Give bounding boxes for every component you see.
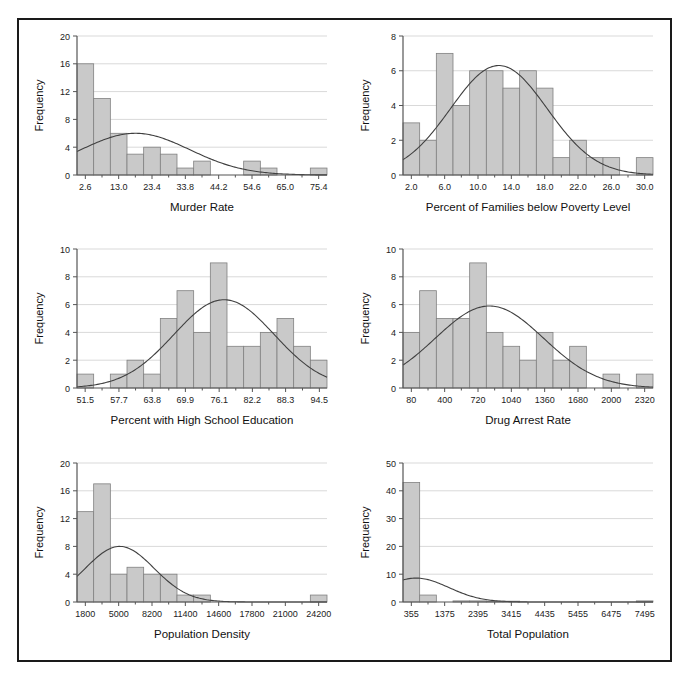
histogram-bar bbox=[260, 168, 277, 175]
x-tick-label: 1800 bbox=[75, 609, 95, 619]
y-tick-label: 2 bbox=[390, 136, 395, 146]
figure-frame: 0481216202.613.023.433.844.254.665.075.4… bbox=[17, 18, 672, 662]
histogram-bar bbox=[110, 574, 127, 602]
x-tick-label: 33.8 bbox=[177, 182, 195, 192]
x-tick-label: 1680 bbox=[567, 395, 587, 405]
x-tick-label: 51.5 bbox=[76, 395, 94, 405]
y-tick-label: 10 bbox=[60, 245, 70, 255]
bars bbox=[403, 53, 653, 175]
panel-total-population: 0102030405035513752395341544355455647574… bbox=[345, 447, 671, 660]
x-tick-label: 75.4 bbox=[310, 182, 328, 192]
y-axis-label: Frequency bbox=[359, 506, 371, 558]
x-tick-label: 54.6 bbox=[243, 182, 261, 192]
histogram-bar bbox=[569, 140, 586, 175]
histogram-bar bbox=[403, 333, 420, 389]
histogram-bar bbox=[77, 511, 94, 601]
x-tick-label: 355 bbox=[403, 609, 418, 619]
x-tick-label: 8200 bbox=[142, 609, 162, 619]
histogram-bar bbox=[177, 168, 194, 175]
y-tick-label: 0 bbox=[65, 171, 70, 181]
x-tick-label: 17800 bbox=[239, 609, 264, 619]
histogram-bar bbox=[310, 361, 327, 389]
histogram-bar bbox=[569, 347, 586, 389]
x-tick-label: 24200 bbox=[306, 609, 331, 619]
x-tick-label: 3415 bbox=[501, 609, 521, 619]
histogram-bar bbox=[436, 319, 453, 389]
y-tick-label: 30 bbox=[385, 514, 395, 524]
bars bbox=[403, 263, 653, 388]
y-axis-label: Frequency bbox=[33, 506, 45, 558]
x-tick-label: 10.0 bbox=[469, 182, 487, 192]
histogram-bar bbox=[160, 154, 177, 175]
y-tick-label: 0 bbox=[390, 171, 395, 181]
histogram-bar bbox=[486, 71, 503, 175]
histogram-bar bbox=[310, 595, 327, 602]
y-axis-label: Frequency bbox=[33, 79, 45, 131]
histogram-bar bbox=[519, 361, 536, 389]
y-axis-label: Frequency bbox=[359, 292, 371, 344]
y-tick-label: 4 bbox=[390, 101, 395, 111]
histogram-bar bbox=[77, 64, 94, 175]
y-tick-label: 4 bbox=[65, 569, 70, 579]
histogram-bar bbox=[294, 347, 311, 389]
x-tick-label: 80 bbox=[406, 395, 416, 405]
x-tick-label: 1375 bbox=[434, 609, 454, 619]
x-tick-label: 14.0 bbox=[502, 182, 520, 192]
histogram-bar bbox=[553, 361, 570, 389]
histogram-bar bbox=[603, 158, 620, 175]
x-axis-label: Percent of Families below Poverty Level bbox=[425, 201, 630, 213]
x-tick-label: 22.0 bbox=[569, 182, 587, 192]
normal-curve bbox=[403, 578, 653, 602]
y-tick-label: 10 bbox=[385, 569, 395, 579]
histogram-bar bbox=[453, 106, 470, 176]
histogram-bar bbox=[536, 333, 553, 389]
bars bbox=[77, 263, 327, 388]
histogram-drug-arrest-rate: 02468108040072010401360168020002320Frequ… bbox=[345, 233, 671, 446]
x-tick-label: 65.0 bbox=[277, 182, 295, 192]
histogram-bar bbox=[160, 574, 177, 602]
x-tick-label: 2.6 bbox=[79, 182, 92, 192]
panel-population-density: 0481216201800500082001140014600178002100… bbox=[19, 447, 345, 660]
histogram-bar bbox=[503, 88, 520, 175]
histogram-bar bbox=[469, 263, 486, 388]
y-tick-label: 6 bbox=[390, 66, 395, 76]
x-tick-label: 1360 bbox=[534, 395, 554, 405]
y-tick-label: 40 bbox=[385, 486, 395, 496]
histogram-bar bbox=[160, 319, 177, 389]
histogram-total-population: 0102030405035513752395341544355455647574… bbox=[345, 447, 671, 660]
histogram-bar bbox=[244, 161, 261, 175]
histogram-bar bbox=[519, 71, 536, 175]
x-tick-label: 2395 bbox=[467, 609, 487, 619]
y-tick-label: 0 bbox=[390, 597, 395, 607]
x-tick-label: 44.2 bbox=[210, 182, 228, 192]
figure-page: 0481216202.613.023.433.844.254.665.075.4… bbox=[0, 0, 687, 675]
y-tick-label: 50 bbox=[385, 458, 395, 468]
y-tick-label: 2 bbox=[390, 356, 395, 366]
histogram-bar bbox=[310, 168, 327, 175]
y-tick-label: 0 bbox=[65, 384, 70, 394]
histogram-poverty-level: 024682.06.010.014.018.022.026.030.0Frequ… bbox=[345, 20, 671, 233]
y-tick-label: 8 bbox=[390, 32, 395, 42]
y-tick-label: 2 bbox=[65, 356, 70, 366]
histogram-grid: 0481216202.613.023.433.844.254.665.075.4… bbox=[19, 20, 670, 660]
y-tick-label: 6 bbox=[65, 300, 70, 310]
histogram-high-school-education: 024681051.557.763.869.976.182.288.394.5F… bbox=[19, 233, 345, 446]
x-tick-label: 400 bbox=[437, 395, 452, 405]
x-tick-label: 69.9 bbox=[177, 395, 195, 405]
y-tick-label: 0 bbox=[390, 384, 395, 394]
histogram-bar bbox=[144, 574, 161, 602]
x-tick-label: 57.7 bbox=[110, 395, 128, 405]
histogram-bar bbox=[244, 347, 261, 389]
x-tick-label: 94.5 bbox=[311, 395, 329, 405]
x-axis-label: Drug Arrest Rate bbox=[485, 414, 571, 426]
histogram-bar bbox=[453, 319, 470, 389]
x-tick-label: 76.1 bbox=[210, 395, 228, 405]
y-axis-label: Frequency bbox=[33, 292, 45, 344]
histogram-bar bbox=[436, 53, 453, 175]
y-tick-label: 16 bbox=[60, 59, 70, 69]
x-tick-label: 82.2 bbox=[244, 395, 262, 405]
histogram-bar bbox=[636, 158, 653, 175]
histogram-bar bbox=[469, 71, 486, 175]
x-tick-label: 1040 bbox=[501, 395, 521, 405]
histogram-bar bbox=[419, 595, 436, 602]
